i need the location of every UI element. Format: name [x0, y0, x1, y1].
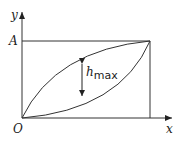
upper-curve	[22, 41, 150, 118]
hmax-label: hmax	[86, 65, 118, 82]
y-axis-label: y	[10, 8, 18, 22]
lower-curve	[22, 41, 150, 118]
x-axis-label: x	[166, 122, 173, 136]
diagram-canvas: y x O A hmax	[0, 0, 182, 142]
hmax-symbol: h	[86, 65, 94, 79]
diagram-svg: y x O A hmax	[0, 0, 182, 142]
origin-label: O	[13, 122, 23, 136]
level-a-label: A	[8, 34, 18, 48]
hmax-subscript: max	[94, 69, 118, 82]
